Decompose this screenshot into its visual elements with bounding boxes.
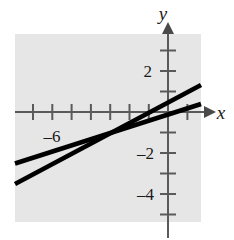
y-tick-label--2: –2	[136, 144, 154, 163]
y-tick-label-2: 2	[144, 62, 153, 81]
x-tick-label--6: –6	[43, 127, 61, 146]
plot-canvas: y x 2 –2 –4 –6	[0, 0, 234, 240]
y-axis-label: y	[157, 3, 168, 24]
x-axis-label: x	[216, 102, 226, 123]
coordinate-graph-figure: y x 2 –2 –4 –6	[0, 0, 234, 240]
y-tick-label--4: –4	[136, 185, 155, 204]
x-axis-arrowhead	[204, 106, 216, 118]
